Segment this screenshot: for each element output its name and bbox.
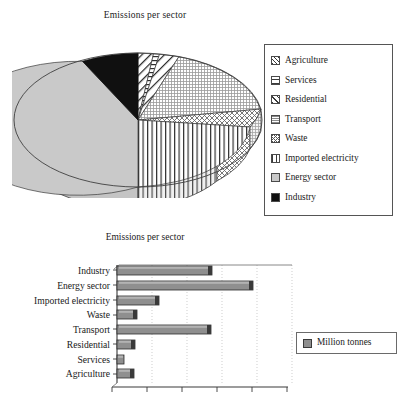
legend-item-energy-sector[interactable]: Energy sector [271,168,388,188]
bar-chart-title: Emissions per sector [0,232,290,242]
bar-category-label-residential: Residential [67,339,110,350]
legend-item-waste[interactable]: Waste [271,129,388,149]
bar-residential[interactable] [117,340,135,349]
legend-swatch-agriculture [271,56,280,65]
legend-label-energy-sector: Energy sector [285,173,336,182]
y-axis-ticks [113,270,117,374]
legend-item-industry[interactable]: Industry [271,188,388,208]
bar-svg: Industry Energy sector Imported electric… [0,246,300,403]
bar-category-label-services: Services [77,354,110,365]
legend-swatch-waste [271,134,280,143]
pie-chart-legend: Agriculture Services Residential Transpo… [264,44,393,216]
pie-slice-imported-electricity [138,120,250,187]
pie-chart-panel: Emissions per sector [0,0,403,228]
bar-category-label-imported-electricity: Imported electricity [34,295,110,306]
legend-swatch-residential [271,95,280,104]
legend-swatch-industry [271,193,280,202]
bar-chart-panel: Emissions per sector [0,228,403,403]
legend-swatch-services [271,76,280,85]
legend-swatch-imported-electricity [271,154,280,163]
legend-item-agriculture[interactable]: Agriculture [271,51,388,71]
legend-label-residential: Residential [285,95,327,104]
legend-item-transport[interactable]: Transport [271,110,388,130]
legend-swatch-transport [271,115,280,124]
bar-transport[interactable] [117,325,211,334]
legend-label-industry: Industry [285,193,316,202]
bar-category-label-industry: Industry [78,265,110,276]
chart-page: Emissions per sector [0,0,403,403]
x-axis-ticks [112,387,287,392]
legend-label-million-tonnes: Million tonnes [317,338,372,347]
pie-chart-title: Emissions per sector [0,10,290,20]
bar-imported-electricity[interactable] [117,296,159,305]
bar-energy-sector[interactable] [117,281,253,290]
bar-category-label-agriculture: Agriculture [66,368,110,379]
legend-label-imported-electricity: Imported electricity [285,154,359,163]
legend-label-agriculture: Agriculture [285,56,328,65]
bar-industry[interactable] [117,266,212,275]
pie-svg [12,48,264,198]
legend-item-residential[interactable]: Residential [271,90,388,110]
bar-category-label-waste: Waste [87,309,110,320]
legend-label-services: Services [285,76,317,85]
legend-label-transport: Transport [285,115,321,124]
legend-label-waste: Waste [285,134,307,143]
bar-chart-legend: Million tonnes [296,332,397,354]
bar-waste[interactable] [117,310,137,319]
legend-item-imported-electricity[interactable]: Imported electricity [271,149,388,169]
pie-chart-graphic [12,48,264,198]
legend-swatch-energy-sector [271,173,280,182]
axis-corner-connector [112,383,117,387]
legend-item-services[interactable]: Services [271,71,388,91]
bar-category-label-transport: Transport [73,324,110,335]
bar-chart-graphic: Industry Energy sector Imported electric… [0,246,300,403]
legend-swatch-million-tonnes [303,339,312,348]
bar-services[interactable] [117,355,124,364]
bar-category-label-energy-sector: Energy sector [57,280,111,291]
bar-agriculture[interactable] [117,369,134,378]
